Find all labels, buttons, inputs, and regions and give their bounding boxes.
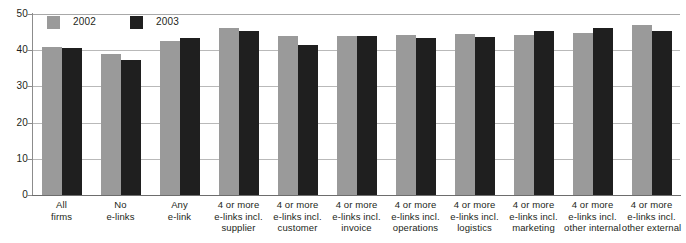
bar-2002[interactable]	[219, 28, 239, 195]
bar-group	[337, 14, 377, 195]
bar-2002[interactable]	[514, 35, 534, 195]
y-tick-mark-10	[27, 159, 32, 160]
y-tick-label-10: 10	[2, 154, 28, 164]
bar-2002[interactable]	[337, 36, 357, 195]
bar-2002[interactable]	[278, 36, 298, 195]
bar-2002[interactable]	[455, 34, 475, 195]
bar-group	[514, 14, 554, 195]
y-tick-mark-50	[27, 14, 32, 15]
chart-legend: 20022003	[47, 15, 179, 29]
bar-group	[160, 14, 200, 195]
bar-2002[interactable]	[573, 33, 593, 195]
x-axis-line	[32, 195, 681, 196]
bar-2002[interactable]	[396, 35, 416, 195]
legend-swatch-icon	[47, 16, 60, 29]
bar-2003[interactable]	[121, 60, 141, 195]
bar-group	[396, 14, 436, 195]
y-tick-label-30: 30	[2, 81, 28, 91]
legend-item-2003[interactable]: 2003	[130, 16, 179, 29]
legend-swatch-icon	[130, 16, 143, 29]
legend-label: 2003	[156, 17, 179, 27]
bar-2003[interactable]	[298, 45, 318, 195]
y-tick-label-20: 20	[2, 118, 28, 128]
y-tick-mark-40	[27, 50, 32, 51]
bar-2002[interactable]	[101, 54, 121, 195]
bar-2002[interactable]	[42, 47, 62, 195]
bar-2003[interactable]	[534, 31, 554, 195]
y-tick-label-50: 50	[2, 9, 28, 19]
bar-2003[interactable]	[652, 31, 672, 195]
y-tick-label-40: 40	[2, 45, 28, 55]
bar-2003[interactable]	[62, 48, 82, 195]
bar-group	[42, 14, 82, 195]
bar-group	[632, 14, 672, 195]
legend-label: 2002	[73, 17, 96, 27]
legend-item-2002[interactable]: 2002	[47, 16, 96, 29]
bar-2003[interactable]	[180, 38, 200, 195]
bar-group	[455, 14, 495, 195]
bar-2003[interactable]	[239, 31, 259, 195]
x-category-label: 4 or moree-links incl.other external	[615, 199, 686, 234]
y-tick-mark-20	[27, 123, 32, 124]
x-axis-category-labels: AllfirmsNoe-linksAnye-link4 or moree-lin…	[32, 199, 681, 243]
bar-2003[interactable]	[475, 37, 495, 195]
bar-chart: 01020304050 20022003 AllfirmsNoe-linksAn…	[0, 0, 686, 243]
bar-group	[219, 14, 259, 195]
bar-2003[interactable]	[357, 36, 377, 195]
bar-2003[interactable]	[593, 28, 613, 195]
bar-2003[interactable]	[416, 38, 436, 195]
bar-group	[573, 14, 613, 195]
y-tick-mark-0	[27, 195, 32, 196]
bar-2002[interactable]	[160, 41, 180, 195]
bar-group	[101, 14, 141, 195]
bar-2002[interactable]	[632, 25, 652, 195]
bar-group	[278, 14, 318, 195]
bar-groups	[32, 14, 681, 195]
y-tick-mark-30	[27, 86, 32, 87]
